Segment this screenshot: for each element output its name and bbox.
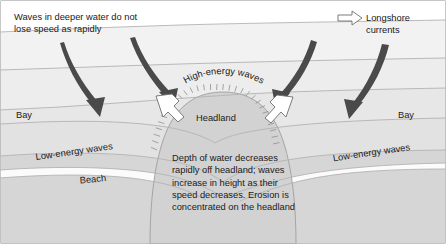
caption-deep-water: Waves in deeper water do not lose speed …: [14, 11, 137, 35]
legend-longshore-currents-label: Longshore currents: [366, 12, 410, 36]
label-headland: Headland: [196, 113, 236, 123]
coastal-wave-refraction-diagram: High-energy waves Low-energy waves Low-e…: [0, 0, 446, 244]
label-bay-right: Bay: [398, 110, 414, 120]
caption-headland-explanation: Depth of water decreases rapidly off hea…: [172, 152, 295, 213]
label-bay-left: Bay: [16, 110, 32, 120]
